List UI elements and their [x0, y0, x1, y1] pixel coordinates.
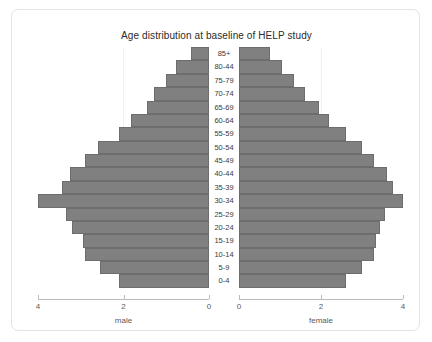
bar-female-50-54: [239, 141, 362, 154]
bar-row: [38, 261, 209, 274]
bar-row: [38, 181, 209, 194]
bar-row: [239, 234, 403, 247]
age-label-40-44: 40-44: [209, 167, 239, 180]
age-label-30-34: 30-34: [209, 194, 239, 207]
bar-male-35-39: [62, 181, 209, 194]
age-label-85+: 85+: [209, 47, 239, 60]
male-0-tick: [209, 295, 210, 299]
bar-row: [38, 194, 209, 207]
female-4-tick: [403, 295, 404, 299]
bar-female-55-59: [239, 127, 346, 140]
bar-male-55-59: [119, 127, 209, 140]
bar-row: [239, 114, 403, 127]
male-4-tick: [38, 295, 39, 299]
bar-male-15-19: [83, 234, 209, 247]
female-bars-group: [239, 47, 403, 288]
male-bars-group: [38, 47, 209, 288]
bar-row: [38, 114, 209, 127]
bar-male-20-24: [72, 221, 209, 234]
bar-male-60-64: [131, 114, 209, 127]
bar-male-30-34: [38, 194, 209, 207]
bar-male-5-9: [100, 261, 209, 274]
bar-row: [239, 87, 403, 100]
x-axis-female: [239, 299, 403, 300]
male-0-tick-label: 0: [207, 302, 211, 311]
bar-male-25-29: [66, 208, 209, 221]
bar-female-65-69: [239, 101, 319, 114]
population-pyramid-plot: 85+80-4475-7970-7465-6960-6455-5950-5445…: [12, 10, 421, 332]
bar-male-65-69: [147, 101, 209, 114]
bar-row: [239, 47, 403, 60]
bar-female-40-44: [239, 167, 387, 180]
bar-male-85+: [191, 47, 209, 60]
bar-row: [38, 87, 209, 100]
bar-row: [239, 274, 403, 287]
age-label-55-59: 55-59: [209, 127, 239, 140]
age-label-0-4: 0-4: [209, 274, 239, 287]
age-label-35-39: 35-39: [209, 181, 239, 194]
bar-row: [38, 274, 209, 287]
bar-row: [38, 127, 209, 140]
axis-caption-female: female: [309, 316, 333, 325]
bar-female-75-79: [239, 74, 294, 87]
age-label-65-69: 65-69: [209, 101, 239, 114]
bar-row: [38, 74, 209, 87]
bar-female-30-34: [239, 194, 403, 207]
bar-male-50-54: [98, 141, 209, 154]
bar-male-75-79: [166, 74, 209, 87]
bar-row: [239, 221, 403, 234]
bar-male-45-49: [85, 154, 209, 167]
bar-female-85+: [239, 47, 270, 60]
age-label-15-19: 15-19: [209, 234, 239, 247]
female-0-tick: [239, 295, 240, 299]
age-label-45-49: 45-49: [209, 154, 239, 167]
axis-caption-male: male: [115, 316, 132, 325]
bar-female-0-4: [239, 274, 346, 287]
bar-row: [239, 74, 403, 87]
bar-female-80-44: [239, 60, 282, 73]
bar-female-10-14: [239, 248, 374, 261]
bar-female-60-64: [239, 114, 329, 127]
female-2-tick: [321, 295, 322, 299]
age-label-5-9: 5-9: [209, 261, 239, 274]
age-label-60-64: 60-64: [209, 114, 239, 127]
bar-female-5-9: [239, 261, 362, 274]
bar-row: [239, 167, 403, 180]
age-label-20-24: 20-24: [209, 221, 239, 234]
bar-female-45-49: [239, 154, 374, 167]
bar-row: [239, 181, 403, 194]
bar-row: [38, 234, 209, 247]
bar-row: [239, 208, 403, 221]
bar-row: [239, 60, 403, 73]
bar-row: [38, 167, 209, 180]
bar-row: [239, 194, 403, 207]
bar-row: [38, 248, 209, 261]
bar-row: [239, 248, 403, 261]
bar-row: [38, 60, 209, 73]
bar-male-40-44: [70, 167, 209, 180]
age-label-70-74: 70-74: [209, 87, 239, 100]
bar-female-25-29: [239, 208, 385, 221]
male-4-tick-label: 4: [36, 302, 40, 311]
bar-male-80-44: [176, 60, 209, 73]
screenshot-root: Age distribution at baseline of HELP stu…: [0, 0, 432, 342]
female-2-tick-label: 2: [319, 302, 323, 311]
bar-row: [38, 47, 209, 60]
female-4-tick-label: 4: [401, 302, 405, 311]
bar-row: [239, 101, 403, 114]
bar-row: [38, 101, 209, 114]
male-2-tick-label: 2: [121, 302, 125, 311]
bar-row: [239, 154, 403, 167]
bar-row: [38, 154, 209, 167]
chart-card: Age distribution at baseline of HELP stu…: [11, 9, 420, 331]
bar-row: [239, 127, 403, 140]
x-axis-male: [38, 299, 209, 300]
age-label-50-54: 50-54: [209, 141, 239, 154]
male-2-tick: [124, 295, 125, 299]
bar-row: [38, 221, 209, 234]
bar-female-20-24: [239, 221, 380, 234]
age-label-80-44: 80-44: [209, 60, 239, 73]
bar-row: [38, 208, 209, 221]
bar-female-15-19: [239, 234, 376, 247]
bar-row: [239, 141, 403, 154]
